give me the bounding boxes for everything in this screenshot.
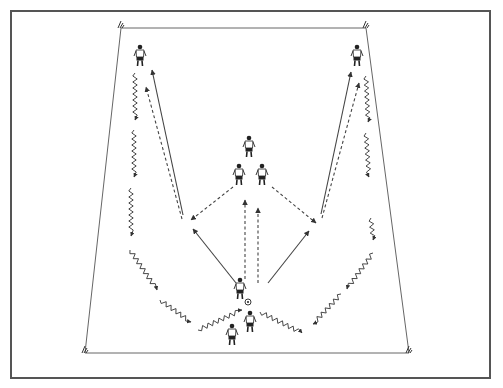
- player-icon: [233, 164, 245, 185]
- run-arrow: [146, 87, 182, 219]
- pass-arrow: [193, 229, 236, 283]
- run-arrow: [322, 83, 359, 218]
- dribble-arrow: [132, 130, 136, 177]
- player-icon: [234, 278, 246, 299]
- dribble-arrow: [369, 218, 375, 240]
- player-icon: [244, 311, 256, 332]
- player-icon: [134, 45, 146, 66]
- player-icon: [226, 324, 238, 345]
- dribble-arrow: [260, 312, 302, 333]
- player-icon: [256, 164, 268, 185]
- run-arrow: [272, 187, 316, 223]
- dribble-arrow: [160, 300, 191, 322]
- dribble-arrow: [129, 188, 133, 236]
- pass-arrow: [268, 231, 309, 283]
- run-arrow: [191, 187, 233, 220]
- dribble-paths: [129, 73, 375, 333]
- dribble-arrow: [133, 73, 137, 120]
- dribble-arrow: [198, 310, 242, 331]
- pass-lines: [152, 70, 351, 283]
- dribble-arrow: [364, 76, 370, 122]
- player-icon: [243, 136, 255, 157]
- player-icon: [351, 45, 363, 66]
- dribble-arrow: [313, 294, 341, 324]
- dribble-arrow: [130, 250, 157, 290]
- dribble-arrow: [347, 253, 373, 289]
- pass-arrow: [321, 72, 351, 214]
- corner-flag-icon: [118, 21, 124, 28]
- corner-flag-icon: [363, 21, 369, 28]
- pass-arrow: [152, 70, 183, 215]
- dribble-arrow: [364, 133, 371, 177]
- ball-icon: [245, 299, 251, 305]
- drill-canvas: [0, 0, 503, 388]
- drill-diagram: [0, 0, 503, 388]
